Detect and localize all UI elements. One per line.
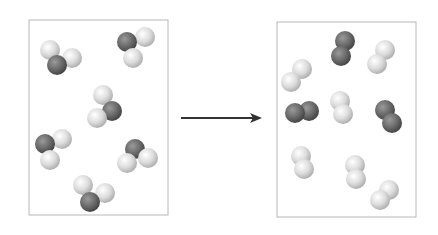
product-molecule bbox=[330, 91, 353, 124]
reactant-molecule bbox=[73, 175, 115, 212]
light-atom bbox=[117, 153, 137, 173]
reactant-molecule bbox=[117, 139, 158, 173]
light-atom bbox=[40, 150, 60, 170]
product-molecule bbox=[375, 100, 402, 133]
dark-atom bbox=[285, 103, 305, 123]
light-atom bbox=[346, 169, 366, 189]
reaction-diagram bbox=[0, 0, 438, 235]
light-atom bbox=[123, 48, 143, 68]
product-molecule bbox=[370, 180, 399, 210]
product-molecule bbox=[291, 146, 314, 179]
product-molecule bbox=[285, 101, 319, 123]
light-atom bbox=[52, 129, 72, 149]
reaction-arrow bbox=[181, 113, 262, 123]
light-atom bbox=[333, 104, 353, 124]
product-molecule bbox=[367, 40, 395, 74]
light-atom bbox=[87, 108, 107, 128]
dark-atom bbox=[331, 46, 351, 66]
reactant-molecule bbox=[117, 27, 155, 68]
light-atom bbox=[135, 27, 155, 47]
light-atom bbox=[281, 72, 301, 92]
light-atom bbox=[294, 159, 314, 179]
reactant-molecules bbox=[35, 27, 158, 212]
reactant-molecule bbox=[40, 40, 82, 75]
reactant-molecule bbox=[35, 129, 72, 170]
product-molecules bbox=[281, 31, 402, 210]
product-molecule bbox=[281, 59, 312, 92]
light-atom bbox=[370, 190, 390, 210]
product-molecule bbox=[331, 31, 355, 66]
dark-atom bbox=[47, 55, 67, 75]
product-molecule bbox=[345, 155, 366, 189]
light-atom bbox=[367, 54, 387, 74]
reactant-molecule bbox=[87, 85, 122, 128]
light-atom bbox=[138, 148, 158, 168]
dark-atom bbox=[80, 192, 100, 212]
dark-atom bbox=[382, 113, 402, 133]
